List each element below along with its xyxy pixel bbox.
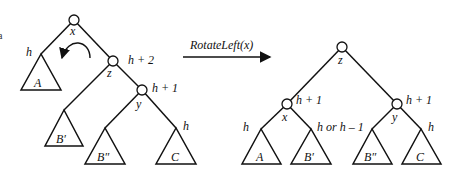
left-subtree-height-label: h	[26, 45, 32, 59]
left-node-label: z	[106, 66, 112, 80]
right-node-label: y	[391, 110, 398, 124]
right-node-label: z	[337, 53, 343, 67]
left-node-label: y	[135, 97, 142, 111]
left-subtree-label: A	[33, 76, 42, 90]
left-subtree-height-label: h	[183, 119, 189, 133]
right-node-label: x	[281, 110, 288, 124]
left-node-z	[108, 56, 118, 66]
right-node-y	[392, 99, 402, 109]
right-subtree-label: C	[416, 150, 425, 164]
right-edge	[342, 47, 397, 104]
operation-label: RotateLeft(x)	[189, 38, 253, 52]
left-node-height-label: h + 1	[152, 81, 178, 95]
right-node-height-label: h + 1	[296, 93, 322, 107]
left-node-label: x	[69, 24, 76, 38]
right-node-z	[337, 42, 347, 52]
right-node-height-label: h + 1	[406, 93, 432, 107]
right-tree-after: AhB′h or h – 1B″Chzxh + 1yh + 1	[242, 42, 441, 164]
rotate-left-operation: RotateLeft(x)	[183, 38, 270, 57]
left-edge	[74, 20, 113, 61]
right-subtree-label: B″	[364, 150, 377, 164]
left-subtree-label: C	[171, 150, 180, 164]
left-node-height-label: h + 2	[128, 53, 154, 67]
right-subtree-height-label: h	[243, 120, 249, 134]
avl-rotate-left-diagram: a AhB′B″Chxzh + 2yh + 1 RotateLeft(x) Ah…	[0, 0, 455, 177]
right-subtree-height-label: h	[428, 120, 434, 134]
right-subtree-height-label: h or h – 1	[317, 120, 364, 134]
left-edge	[142, 90, 176, 128]
curved-counterclockwise-arrow-icon	[62, 43, 90, 58]
left-edge	[64, 61, 113, 110]
left-subtree-label: B″	[97, 150, 110, 164]
left-node-y	[137, 85, 147, 95]
left-subtree-label: B′	[56, 132, 66, 146]
right-node-x	[282, 99, 292, 109]
left-tree-before: AhB′B″Chxzh + 2yh + 1	[21, 15, 196, 164]
right-subtree-label: B′	[304, 150, 314, 164]
edge-fragment-text: a	[0, 30, 3, 41]
right-subtree-label: A	[255, 150, 264, 164]
